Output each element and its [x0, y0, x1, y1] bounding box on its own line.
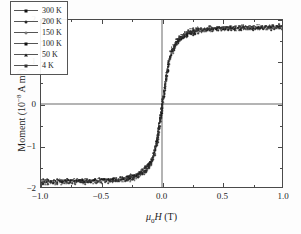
legend-symbol [14, 49, 38, 60]
legend-marker-square-icon [25, 9, 28, 12]
x-axis-title-var: H [155, 211, 162, 222]
legend-item[interactable]: 150 K [14, 27, 62, 38]
data-point [220, 28, 222, 30]
x-tick-minor-top [71, 20, 72, 22]
y-tick-major-right [278, 62, 282, 63]
x-tick-minor-bottom [132, 185, 133, 187]
data-point [154, 155, 156, 157]
data-point [246, 26, 248, 28]
data-point [133, 175, 135, 177]
data-point [113, 180, 115, 182]
x-tick-label: 0.0 [156, 192, 167, 201]
data-point [282, 28, 283, 30]
figure-magnetization-curve: −1.0−0.50.00.51.0 210−1−2 μ0H (T) Moment… [0, 0, 301, 234]
y-tick-major-right [278, 105, 282, 106]
legend-item[interactable]: 300 K [14, 5, 62, 16]
legend-item[interactable]: 50 K [14, 49, 62, 60]
data-point [102, 180, 104, 182]
data-point [269, 28, 271, 30]
data-point [193, 31, 195, 33]
plot-area [40, 19, 283, 188]
data-point [222, 28, 224, 30]
data-point [168, 60, 170, 62]
data-point [207, 27, 209, 29]
x-tick-minor-bottom [71, 185, 72, 187]
data-point [106, 180, 108, 182]
y-tick-minor-right [280, 126, 282, 127]
data-point [160, 119, 162, 121]
data-point [225, 28, 227, 30]
data-point [236, 25, 238, 27]
data-point [173, 49, 175, 51]
x-tick-label: −1.0 [32, 192, 48, 201]
data-point [163, 94, 165, 96]
y-tick-minor-left [41, 83, 43, 84]
legend-label: 200 K [38, 18, 62, 26]
data-point [156, 142, 158, 144]
data-point [163, 92, 165, 94]
data-point [146, 170, 148, 172]
x-axis-title: μ0H (T) [40, 211, 283, 225]
data-point [282, 26, 283, 28]
x-tick-label: −0.5 [93, 192, 109, 201]
legend-marker-circle-icon [25, 20, 28, 23]
data-point [167, 66, 169, 68]
y-tick-major-left [41, 147, 45, 148]
data-point [57, 183, 59, 185]
legend-item[interactable]: 200 K [14, 16, 62, 27]
x-tick-label: 1.0 [277, 192, 288, 201]
data-point [134, 179, 136, 181]
data-point [107, 183, 109, 185]
y-tick-minor-left [41, 168, 43, 169]
data-point [211, 27, 213, 29]
data-point [221, 30, 223, 32]
data-point [88, 181, 90, 183]
data-point [164, 90, 166, 92]
data-point [85, 183, 87, 185]
data-point [163, 99, 165, 101]
x-tick-label: 0.5 [217, 192, 228, 201]
data-point [154, 150, 156, 152]
data-point [169, 58, 171, 60]
y-tick-major-left [41, 105, 45, 106]
data-point [140, 174, 142, 176]
y-tick-minor-right [280, 41, 282, 42]
legend-item[interactable]: 4 K [14, 60, 62, 71]
data-point [157, 136, 159, 138]
data-point [158, 139, 160, 141]
data-point [180, 36, 182, 38]
x-tick-major-bottom [41, 183, 42, 187]
x-tick-minor-top [132, 20, 133, 22]
data-point [74, 183, 76, 185]
legend-marker-triangle-icon [24, 53, 28, 56]
data-point [150, 165, 152, 167]
y-tick-minor-left [41, 126, 43, 127]
data-point [282, 26, 283, 28]
data-point [174, 47, 176, 49]
data-point [122, 178, 124, 180]
data-point [82, 183, 84, 185]
y-axis-title-main: Moment (10 [16, 102, 27, 152]
data-point [146, 171, 148, 173]
data-point [244, 27, 246, 29]
data-point [228, 26, 230, 28]
data-point [47, 184, 49, 186]
data-point [162, 111, 164, 113]
data-point [92, 183, 94, 185]
data-point [143, 174, 145, 176]
legend-item[interactable]: 100 K [14, 38, 62, 49]
data-point [152, 158, 154, 160]
legend-label: 150 K [38, 29, 62, 37]
legend-label: 50 K [38, 51, 58, 59]
data-point [165, 85, 167, 87]
x-tick-minor-top [254, 20, 255, 22]
data-point [278, 28, 280, 30]
y-tick-major-right [278, 147, 282, 148]
y-tick-major-right [278, 20, 282, 21]
legend-symbol [14, 27, 38, 38]
data-point [167, 70, 169, 72]
data-point [151, 160, 153, 162]
legend-marker-open-circle-icon [25, 31, 28, 34]
data-point [176, 41, 178, 43]
data-point [183, 36, 185, 38]
